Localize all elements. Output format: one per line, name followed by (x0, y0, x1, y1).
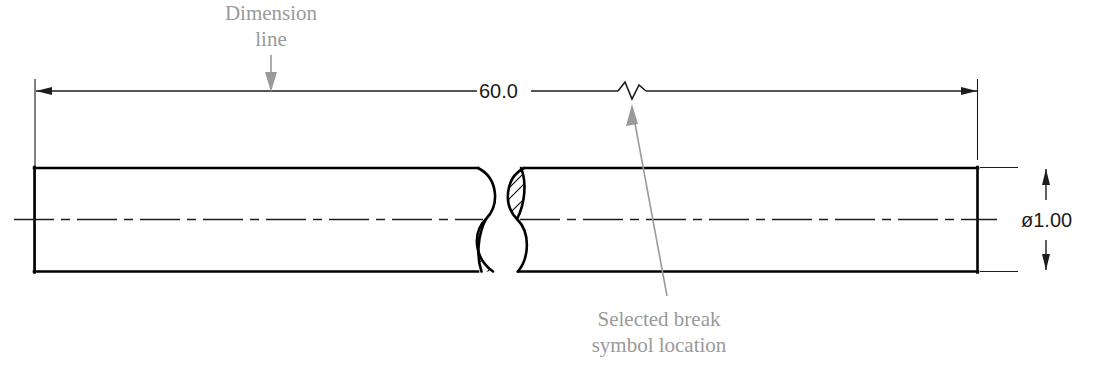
break-callout-leader-line (634, 118, 667, 296)
arrowhead-diameter-top-icon (1042, 169, 1050, 185)
arrowhead-diameter-bottom-icon (1042, 254, 1050, 270)
engineering-drawing-canvas: 60.0 (0, 0, 1108, 389)
dimension-callout-arrow-icon (265, 72, 277, 92)
arrowhead-left-icon (36, 87, 52, 95)
extension-lines-length (35, 79, 978, 272)
break-symbol-callout (626, 104, 667, 296)
dimension-callout-line2: line (255, 27, 287, 51)
break-callout-line1: Selected break (597, 307, 721, 331)
section-hatch-left (455, 205, 522, 314)
dimension-callout-line1: Dimension (225, 1, 318, 25)
arrowhead-right-icon (961, 87, 977, 95)
dimension-line-callout (265, 55, 277, 92)
drawing-svg: 60.0 (0, 0, 1108, 389)
break-callout-line2: symbol location (592, 333, 727, 357)
break-callout-arrow-icon (626, 104, 638, 126)
length-dimension-value: 60.0 (479, 80, 518, 102)
diameter-dimension-value: ø1.00 (1021, 209, 1072, 231)
zigzag-break-symbol-icon (618, 82, 646, 99)
